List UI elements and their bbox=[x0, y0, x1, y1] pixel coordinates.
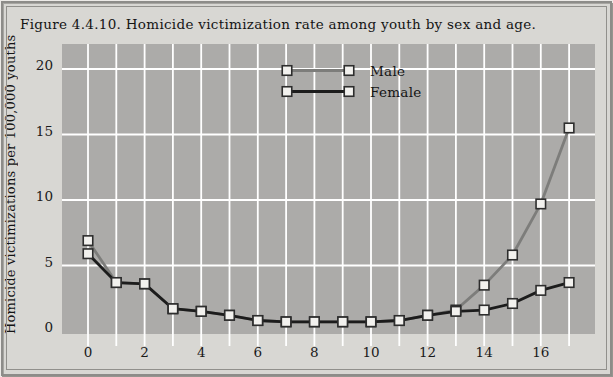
data-point-female-age-1 bbox=[112, 278, 122, 288]
y-tick-label-10: 10 bbox=[36, 188, 53, 204]
legend-marker-male-1 bbox=[344, 66, 354, 76]
x-tick-label-4: 4 bbox=[197, 344, 206, 360]
data-point-female-age-10 bbox=[366, 317, 376, 327]
x-tick-label-14: 14 bbox=[476, 344, 493, 360]
legend-swatch-female-line bbox=[277, 84, 361, 99]
data-point-female-age-4 bbox=[196, 307, 206, 317]
data-point-female-age-13 bbox=[451, 307, 461, 317]
legend-marker-female-0 bbox=[282, 87, 292, 97]
data-point-female-age-17 bbox=[564, 278, 574, 288]
legend-label-male: Male bbox=[370, 63, 405, 79]
figure-title: Figure 4.4.10. Homicide victimization ra… bbox=[20, 16, 536, 32]
legend-swatch-male-line bbox=[277, 63, 361, 78]
data-point-male-age-15 bbox=[508, 250, 518, 260]
x-tick-label-0: 0 bbox=[84, 344, 93, 360]
legend-item-male: Male bbox=[277, 60, 422, 81]
y-tick-label-20: 20 bbox=[36, 57, 53, 73]
x-tick-label-8: 8 bbox=[310, 344, 319, 360]
legend-item-female: Female bbox=[277, 81, 422, 102]
data-point-female-age-2 bbox=[140, 279, 150, 289]
legend: Male Female bbox=[277, 60, 422, 102]
x-tick-label-6: 6 bbox=[254, 344, 263, 360]
data-point-female-age-0 bbox=[83, 249, 93, 259]
y-axis-title: Homicide victimizations per 100,000 yout… bbox=[3, 44, 23, 334]
data-point-female-age-5 bbox=[225, 311, 235, 321]
data-point-female-age-12 bbox=[423, 311, 433, 321]
x-tick-label-12: 12 bbox=[419, 344, 436, 360]
y-tick-label-15: 15 bbox=[36, 123, 53, 139]
x-tick-label-2: 2 bbox=[140, 344, 149, 360]
data-point-female-age-15 bbox=[508, 299, 518, 309]
chart-canvas: 024681012141605101520 bbox=[0, 0, 613, 377]
x-tick-label-10: 10 bbox=[362, 344, 379, 360]
data-point-female-age-3 bbox=[168, 304, 178, 314]
data-point-female-age-14 bbox=[479, 305, 489, 315]
legend-label-female: Female bbox=[370, 84, 422, 100]
data-point-male-age-16 bbox=[536, 199, 546, 209]
data-point-male-age-17 bbox=[564, 123, 574, 133]
y-tick-label-5: 5 bbox=[44, 254, 53, 270]
legend-marker-male-0 bbox=[282, 66, 292, 76]
data-point-female-age-11 bbox=[395, 316, 405, 326]
data-point-female-age-9 bbox=[338, 317, 348, 327]
data-point-female-age-8 bbox=[310, 317, 320, 327]
legend-marker-female-1 bbox=[344, 87, 354, 97]
data-point-female-age-6 bbox=[253, 316, 262, 326]
figure: Figure 4.4.10. Homicide victimization ra… bbox=[0, 0, 613, 377]
data-point-female-age-7 bbox=[281, 317, 291, 327]
x-tick-label-16: 16 bbox=[532, 344, 549, 360]
data-point-male-age-0 bbox=[83, 236, 93, 246]
data-point-male-age-14 bbox=[479, 280, 489, 290]
y-tick-label-0: 0 bbox=[44, 319, 53, 335]
data-point-female-age-16 bbox=[536, 286, 546, 296]
